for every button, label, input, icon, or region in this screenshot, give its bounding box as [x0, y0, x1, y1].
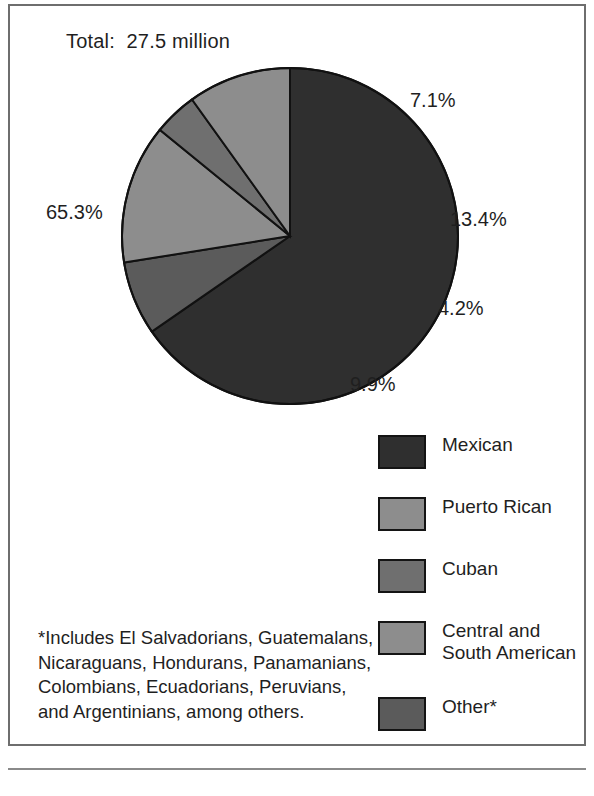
legend-label-mexican: Mexican	[442, 434, 513, 456]
legend-item-puerto-rican: Puerto Rican	[378, 496, 552, 531]
pie-label-central-south-american: 13.4%	[450, 208, 507, 231]
legend-label-other: Other*	[442, 696, 497, 718]
legend-label-central-south-american: Central and South American	[442, 620, 576, 664]
bottom-divider	[8, 768, 586, 770]
legend-label-cuban: Cuban	[442, 558, 498, 580]
legend-swatch-mexican	[378, 435, 426, 469]
footnote: *Includes El Salvadorians, Guatemalans, …	[38, 626, 378, 724]
figure-frame: Total: 27.5 million 65.3% 7.1% 13.4% 4.2…	[8, 4, 586, 746]
legend-item-cuban: Cuban	[378, 558, 498, 593]
legend-item-mexican: Mexican	[378, 434, 513, 469]
pie-chart	[120, 54, 460, 406]
legend-swatch-puerto-rican	[378, 497, 426, 531]
legend-swatch-other	[378, 697, 426, 731]
pie-label-other: 7.1%	[410, 89, 456, 112]
legend-swatch-central-south-american	[378, 621, 426, 655]
legend-item-central-south-american: Central and South American	[378, 620, 576, 664]
legend-item-other: Other*	[378, 696, 497, 731]
pie-label-puerto-rican: 9.9%	[350, 373, 396, 396]
legend-label-puerto-rican: Puerto Rican	[442, 496, 552, 518]
pie-label-cuban: 4.2%	[438, 297, 484, 320]
pie-label-mexican: 65.3%	[46, 201, 103, 224]
pie-chart-area: 65.3% 7.1% 13.4% 4.2% 9.9%	[10, 6, 588, 426]
legend-swatch-cuban	[378, 559, 426, 593]
